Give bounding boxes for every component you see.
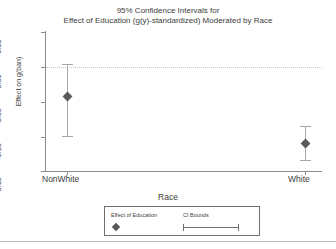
chart-title-line-1: 95% Confidence Intervals for <box>0 6 336 16</box>
chart-subtitle: Effect of Education (g(y)-standardized) … <box>0 16 336 26</box>
chart-figure: 95% Confidence Intervals for Effect of E… <box>0 0 336 249</box>
y-tick-mark-2 <box>41 102 45 103</box>
data-point-white <box>301 139 311 149</box>
legend-label-ci: CI Bounds <box>183 212 209 218</box>
y-tick-mark-0 <box>41 32 45 33</box>
chart-title: 95% Confidence Intervals for Effect of E… <box>0 6 336 26</box>
y-tick-label-1: 0.00 <box>0 67 3 97</box>
data-point-nonwhite <box>63 92 73 102</box>
x-tick-label-nonwhite: NonWhite <box>42 174 79 184</box>
ci-cap-lower-nonwhite <box>62 136 73 137</box>
legend-error-bar-cap-left <box>183 224 184 231</box>
y-tick-label-2: -0.05 <box>0 102 3 132</box>
legend-error-bar-icon <box>183 227 239 228</box>
zero-reference-line <box>46 67 322 68</box>
y-tick-mark-3 <box>41 137 45 138</box>
ci-cap-upper-white <box>300 126 311 127</box>
legend-error-bar-cap-right <box>238 224 239 231</box>
y-tick-mark-4 <box>41 171 45 172</box>
chart-legend: Effect of Education CI Bounds <box>104 206 260 236</box>
y-tick-mark-1 <box>41 67 45 68</box>
x-axis-title: Race <box>0 192 336 202</box>
legend-label-effect: Effect of Education <box>111 212 157 218</box>
y-axis-title: Effect on g(ban) <box>15 57 22 107</box>
y-axis-line <box>45 31 46 172</box>
ci-cap-upper-nonwhite <box>62 64 73 65</box>
bottom-divider <box>0 241 336 242</box>
ci-cap-lower-white <box>300 160 311 161</box>
legend-diamond-icon <box>112 223 120 231</box>
y-tick-label-3: -0.10 <box>0 137 3 167</box>
x-axis-line <box>45 171 322 172</box>
x-tick-label-white: White <box>288 174 310 184</box>
y-tick-label-0: 0.05 <box>0 32 3 62</box>
